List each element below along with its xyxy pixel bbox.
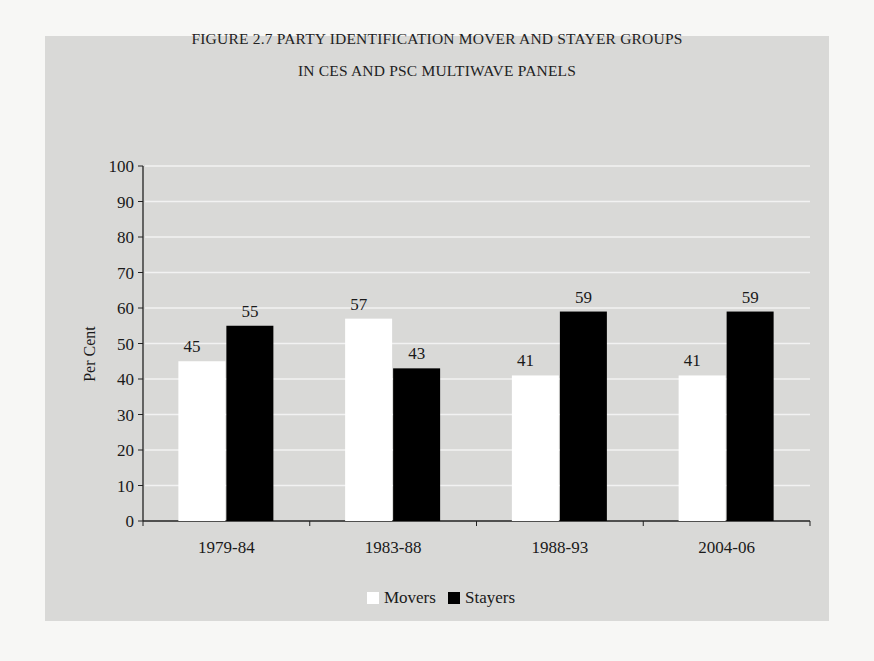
y-axis-label: Per Cent	[81, 314, 99, 394]
data-label: 45	[183, 337, 200, 356]
x-category-label: 1988-93	[532, 538, 589, 557]
x-category-label: 1979-84	[198, 538, 255, 557]
legend: Movers Stayers	[0, 588, 874, 608]
legend-movers: Movers	[384, 588, 436, 607]
bar-chart: 010203040506070809010045551979-845743198…	[0, 0, 874, 661]
stayers-bar	[560, 312, 607, 521]
movers-bar	[512, 375, 559, 521]
x-category-label: 1983-88	[365, 538, 422, 557]
data-label: 57	[350, 295, 368, 314]
y-tick-label: 60	[117, 299, 134, 318]
stayers-bar	[393, 368, 440, 521]
movers-bar	[345, 319, 392, 521]
data-label: 41	[684, 351, 701, 370]
data-label: 41	[517, 351, 534, 370]
y-tick-label: 100	[109, 157, 135, 176]
y-tick-label: 40	[117, 370, 134, 389]
y-tick-label: 20	[117, 441, 134, 460]
legend-stayers: Stayers	[465, 588, 515, 607]
stayers-bar	[727, 312, 774, 521]
movers-swatch-icon	[367, 592, 379, 604]
movers-bar	[679, 375, 726, 521]
x-category-label: 2004-06	[698, 538, 755, 557]
data-label: 43	[408, 344, 425, 363]
y-tick-label: 50	[117, 335, 134, 354]
data-label: 59	[742, 288, 759, 307]
stayers-bar	[226, 326, 273, 521]
stayers-swatch-icon	[448, 592, 460, 604]
data-label: 55	[241, 302, 258, 321]
data-label: 59	[575, 288, 592, 307]
y-tick-label: 80	[117, 228, 134, 247]
movers-bar	[178, 361, 225, 521]
y-tick-label: 30	[117, 406, 134, 425]
y-tick-label: 70	[117, 264, 134, 283]
y-tick-label: 90	[117, 193, 134, 212]
y-tick-label: 10	[117, 477, 134, 496]
y-tick-label: 0	[126, 512, 135, 531]
